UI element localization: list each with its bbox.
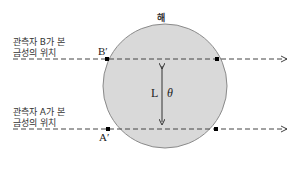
transit-diagram [0, 0, 300, 169]
distance-label: L [151, 88, 158, 99]
observer-b-label-line2: 금성의 위치 [13, 48, 56, 59]
observer-a-label-line2: 금성의 위치 [13, 118, 56, 129]
observer-a-label-line1: 관측자 A가 본 [13, 107, 65, 118]
sun-label: 해 [157, 13, 165, 24]
observer-b-label-line1: 관측자 B가 본 [13, 37, 65, 48]
angle-label: θ [167, 88, 173, 99]
point-a-exit [214, 127, 218, 131]
point-b-exit [215, 57, 219, 61]
point-a-label: A′ [99, 132, 109, 143]
point-b-label: B′ [98, 46, 108, 57]
point-b-prime [105, 57, 109, 61]
